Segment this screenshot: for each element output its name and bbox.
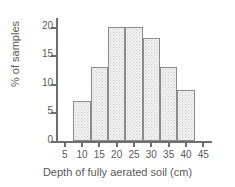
x-tick-label: 10 bbox=[76, 149, 87, 160]
y-axis-title: % of samples bbox=[9, 0, 21, 109]
x-tick-label: 40 bbox=[180, 149, 191, 160]
x-tick-label: 35 bbox=[163, 149, 174, 160]
y-tick-label: 20 bbox=[42, 20, 53, 31]
x-axis-title: Depth of fully aerated soil (cm) bbox=[0, 166, 235, 178]
histogram-bar bbox=[125, 27, 142, 141]
histogram-bar bbox=[108, 27, 125, 141]
y-tick-label: 0 bbox=[47, 134, 53, 145]
x-tick-mark bbox=[64, 143, 66, 147]
histogram-bar bbox=[160, 67, 177, 141]
x-tick-mark bbox=[185, 143, 187, 147]
x-tick-mark bbox=[133, 143, 135, 147]
y-axis-line bbox=[56, 18, 58, 143]
x-tick-mark bbox=[168, 143, 170, 147]
x-tick-mark bbox=[116, 143, 118, 147]
x-tick-label: 20 bbox=[111, 149, 122, 160]
x-tick-label: 15 bbox=[94, 149, 105, 160]
y-tick-label: 15 bbox=[42, 48, 53, 59]
x-tick-label: 25 bbox=[128, 149, 139, 160]
x-tick-label: 45 bbox=[198, 149, 209, 160]
histogram-bar bbox=[73, 101, 90, 141]
histogram-bar bbox=[143, 38, 160, 141]
histogram-chart: % of samples 05101520 51015202530354045 … bbox=[0, 0, 235, 187]
x-tick-mark bbox=[81, 143, 83, 147]
x-tick-mark bbox=[150, 143, 152, 147]
x-tick-mark bbox=[202, 143, 204, 147]
histogram-bar bbox=[91, 67, 108, 141]
y-tick-label: 5 bbox=[47, 105, 53, 116]
y-tick-label: 10 bbox=[42, 77, 53, 88]
histogram-bar bbox=[177, 90, 194, 141]
plot-area: 05101520 51015202530354045 bbox=[56, 18, 212, 143]
x-tick-label: 30 bbox=[146, 149, 157, 160]
x-tick-mark bbox=[98, 143, 100, 147]
x-tick-label: 5 bbox=[62, 149, 68, 160]
